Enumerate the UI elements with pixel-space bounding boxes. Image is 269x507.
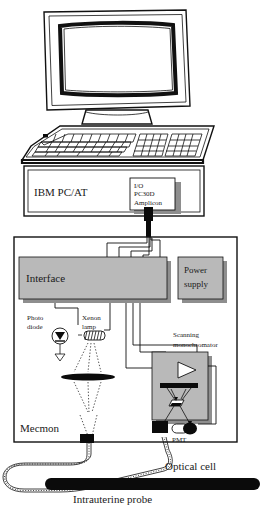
monitor-icon — [44, 10, 190, 124]
lens-icon — [61, 373, 115, 380]
photo-diode-label-line2: diode — [27, 323, 43, 331]
mecmon-label: Mecmon — [20, 422, 60, 434]
fiber-port-connectors — [80, 421, 168, 443]
xenon-lamp-label-line2: lamp — [82, 323, 96, 331]
pmt-label: PMT — [172, 436, 187, 444]
instrument-schematic-diagram: IBM PC/AT I/O PC30D Amplicon Mecmon Inte… — [0, 0, 269, 507]
io-connector-icon — [144, 207, 153, 237]
scanning-monochromator-label-line2: monochromator — [173, 341, 218, 349]
intrauterine-probe-label: Intrauterine probe — [73, 493, 152, 505]
io-card-label-line1: I/O — [134, 182, 143, 190]
photo-diode-label-line1: Photo — [27, 314, 44, 322]
io-card-label-line2: PC30D — [134, 190, 155, 198]
power-supply-label-line2: supply — [184, 279, 209, 289]
probe-icon — [45, 478, 260, 490]
io-card-label-line3: Amplicon — [134, 199, 162, 207]
interface-label: Interface — [26, 272, 65, 284]
optical-cell-label: Optical cell — [165, 460, 216, 472]
monochromator-icon — [152, 352, 212, 426]
pmt-icon — [172, 423, 197, 435]
interconnect-cables — [107, 237, 160, 258]
light-ray-paths — [74, 343, 101, 436]
lamp-icon — [78, 331, 105, 340]
keyboard-icon — [22, 126, 214, 163]
power-supply-label-line1: Power — [184, 265, 207, 275]
xenon-lamp-label-line1: Xenon — [82, 314, 101, 322]
photodiode-icon — [52, 328, 68, 361]
pc-unit-label: IBM PC/AT — [34, 186, 88, 198]
scanning-monochromator-label-line1: Scanning — [173, 331, 200, 339]
